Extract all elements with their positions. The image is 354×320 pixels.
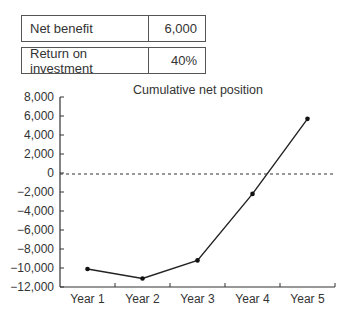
y-tick-label: −10,000 bbox=[10, 261, 54, 275]
y-tick-label: 8,000 bbox=[24, 90, 54, 104]
y-tick-label: −6,000 bbox=[17, 223, 54, 237]
data-points bbox=[85, 117, 310, 281]
y-tick-label: 0 bbox=[47, 166, 54, 180]
x-tick-label: Year 1 bbox=[70, 292, 105, 306]
x-tick-label: Year 3 bbox=[180, 292, 215, 306]
chart-title: Cumulative net position bbox=[133, 83, 263, 97]
series-line bbox=[88, 119, 308, 279]
data-point bbox=[140, 276, 145, 281]
x-tick-label: Year 5 bbox=[290, 292, 325, 306]
x-tick-label: Year 2 bbox=[125, 292, 160, 306]
data-point bbox=[85, 267, 90, 272]
y-tick-label: 6,000 bbox=[24, 109, 54, 123]
y-tick-label: −8,000 bbox=[17, 242, 54, 256]
x-tick-label: Year 4 bbox=[235, 292, 270, 306]
data-point bbox=[195, 258, 200, 263]
y-tick-label: −12,000 bbox=[10, 280, 54, 294]
y-tick-label: −2,000 bbox=[17, 185, 54, 199]
y-tick-label: −4,000 bbox=[17, 204, 54, 218]
x-axis: Year 1Year 2Year 3Year 4Year 5 bbox=[60, 283, 335, 306]
data-point bbox=[250, 192, 255, 197]
data-point bbox=[305, 117, 310, 122]
y-tick-label: 4,000 bbox=[24, 128, 54, 142]
y-tick-label: 2,000 bbox=[24, 147, 54, 161]
y-axis: 8,0006,0004,0002,0000−2,000−4,000−6,000−… bbox=[10, 90, 64, 294]
line-chart: Cumulative net position 8,0006,0004,0002… bbox=[0, 0, 354, 320]
